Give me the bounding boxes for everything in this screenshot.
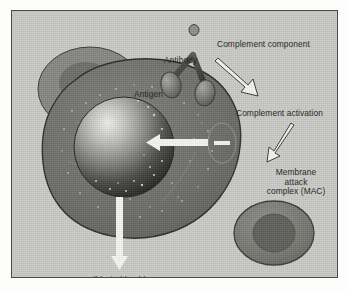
label-complement-component: Complement component: [217, 40, 310, 50]
label-cell-lysis: Cell lysis (death): [83, 276, 146, 278]
label-mac-line-3: complex (MAC): [249, 187, 338, 197]
label-antigen: Antigen: [134, 90, 163, 100]
figure-container: Complement component Antibody Antigen Co…: [0, 0, 346, 293]
label-membrane-attack-complex: Membrane attack complex (MAC): [249, 168, 338, 197]
complement-component-knob: [189, 25, 199, 36]
diagram-panel: Complement component Antibody Antigen Co…: [11, 10, 338, 278]
small-intact-cell: [234, 201, 314, 265]
diagram-artwork: [12, 11, 337, 277]
arrow-activation-to-mac: [267, 123, 294, 162]
label-antibody: Antibody: [164, 56, 197, 66]
label-complement-activation: Complement activation: [236, 109, 323, 119]
